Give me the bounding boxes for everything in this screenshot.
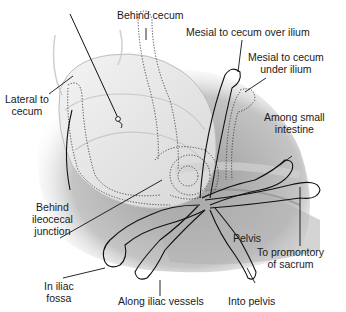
label-pelvis: Pelvis bbox=[233, 232, 261, 244]
label-behind-cecum: Behind cecum bbox=[117, 9, 184, 21]
label-in-iliac-fossa: In iliac fossa bbox=[44, 280, 74, 304]
label-among-small-intestine: Among small intestine bbox=[264, 111, 325, 135]
label-along-iliac-vessels: Along iliac vessels bbox=[118, 295, 204, 307]
label-mesial-under-ilium: Mesial to cecum under ilium bbox=[248, 51, 324, 75]
label-behind-ileocecal-junction: Behind ileocecal junction bbox=[32, 201, 73, 237]
label-to-promontory-of-sacrum: To promontory of sacrum bbox=[257, 246, 324, 270]
label-into-pelvis: Into pelvis bbox=[228, 295, 275, 307]
label-lateral-to-cecum: Lateral to cecum bbox=[5, 93, 49, 117]
label-mesial-over-ilium: Mesial to cecum over ilium bbox=[186, 26, 310, 38]
